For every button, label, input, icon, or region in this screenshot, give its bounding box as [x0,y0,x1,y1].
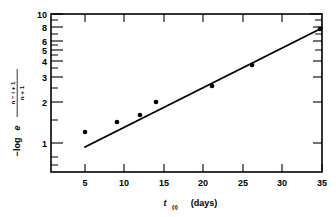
y-tick-label: 2 [42,98,47,108]
x-axis-label: t (i) (days) [164,198,218,210]
scatter-chart: 10 8 6 5 4 3 2 1 5 10 15 20 25 30 35 [0,0,336,217]
data-point [138,113,143,118]
y-axis-label-numerator: n − i + 1 [9,81,16,105]
y-tick-label: 8 [42,23,47,33]
x-axis-label-subscript: (i) [172,203,178,210]
y-axis-label: −log e n − i + 1 n + 1 [9,69,26,156]
x-tick-label: 15 [159,178,169,188]
y-axis-tick-labels: 10 8 6 5 4 3 2 1 [37,10,47,149]
data-point [83,130,88,135]
y-tick-label: 1 [42,139,47,149]
y-tick-label: 10 [37,10,47,20]
data-point [115,120,120,125]
plot-background [51,14,322,172]
x-axis-tick-labels: 5 10 15 20 25 30 35 [82,178,327,188]
x-axis-label-symbol: t [164,198,168,208]
x-tick-label: 5 [82,178,87,188]
x-tick-label: 25 [238,178,248,188]
y-tick-label: 3 [42,73,47,83]
x-tick-label: 30 [277,178,287,188]
data-point [210,84,215,89]
x-tick-label: 10 [119,178,129,188]
data-point [154,100,159,105]
y-axis-label-prefix: −log [12,138,22,157]
data-point [318,27,323,32]
data-point [250,63,255,68]
y-axis-label-denominator: n + 1 [18,85,25,100]
x-axis-label-units: (days) [191,198,218,208]
x-tick-label: 20 [198,178,208,188]
figure-container: 10 8 6 5 4 3 2 1 5 10 15 20 25 30 35 [0,0,336,217]
y-tick-label: 5 [42,46,47,56]
y-axis-label-base: e [12,125,22,130]
x-tick-label: 35 [317,178,327,188]
y-tick-label: 4 [42,57,47,67]
